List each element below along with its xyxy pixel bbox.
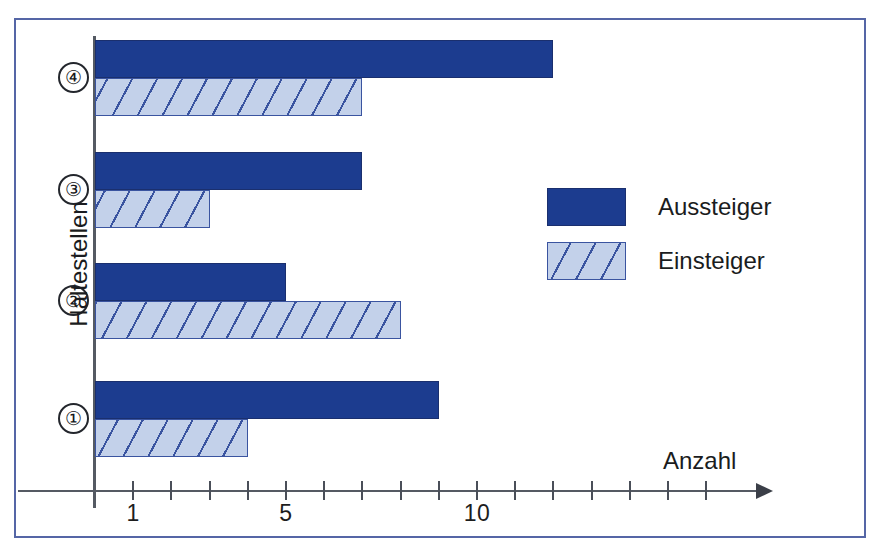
y-axis-title: Haltestellen [65, 164, 93, 364]
x-tick-2 [170, 481, 172, 500]
hatch-pattern-icon [96, 79, 361, 115]
bar-aussteiger-4 [95, 40, 553, 78]
legend-swatch-aussteiger [547, 188, 626, 226]
legend-label-aussteiger: Aussteiger [658, 193, 771, 221]
bar-einsteiger-4 [95, 78, 362, 116]
x-tick-4 [247, 481, 249, 500]
bar-aussteiger-1 [95, 381, 439, 419]
bar-einsteiger-3 [95, 190, 210, 228]
hatch-pattern-icon [96, 302, 400, 338]
legend-label-einsteiger: Einsteiger [658, 247, 765, 275]
x-axis-title: Anzahl [663, 447, 736, 475]
hatch-pattern-icon [96, 191, 209, 227]
x-tick-16 [705, 481, 707, 500]
x-tick-7 [361, 481, 363, 500]
x-tick-13 [591, 481, 593, 500]
x-tick-14 [629, 481, 631, 500]
x-tick-15 [667, 481, 669, 500]
x-tick-10 [476, 481, 478, 500]
legend-item-einsteiger: Einsteiger [547, 242, 765, 280]
bar-aussteiger-3 [95, 152, 362, 190]
x-tick-5 [285, 481, 287, 500]
bar-aussteiger-2 [95, 263, 286, 301]
x-tick-8 [400, 481, 402, 500]
legend-item-aussteiger: Aussteiger [547, 188, 771, 226]
bar-chart: 1510 ①②③④ Haltestellen Anzahl Aussteiger… [0, 0, 882, 558]
x-axis-arrow-icon [756, 483, 773, 499]
x-tick-3 [209, 481, 211, 500]
x-tick-label-10: 10 [464, 500, 491, 527]
x-axis-line [18, 490, 758, 492]
x-tick-label-1: 1 [127, 500, 140, 527]
category-label-4: ④ [58, 62, 89, 93]
x-tick-6 [323, 481, 325, 500]
x-tick-12 [552, 481, 554, 500]
legend-swatch-einsteiger [547, 242, 626, 280]
x-tick-label-5: 5 [279, 500, 292, 527]
category-label-1: ① [58, 403, 89, 434]
bar-einsteiger-2 [95, 301, 401, 339]
hatch-pattern-icon [548, 243, 625, 279]
bar-einsteiger-1 [95, 419, 248, 457]
hatch-pattern-icon [96, 420, 247, 456]
x-tick-1 [132, 481, 134, 500]
x-tick-9 [438, 481, 440, 500]
x-tick-11 [514, 481, 516, 500]
